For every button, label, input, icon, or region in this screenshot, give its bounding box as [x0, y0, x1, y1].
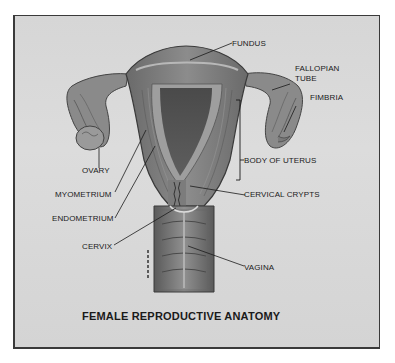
- label-fallopian-tube-line1: FALLOPIAN: [295, 64, 339, 73]
- label-fallopian-tube-line2: TUBE: [295, 74, 317, 83]
- label-myometrium: MYOMETRIUM: [55, 190, 112, 199]
- label-cervical-crypts: CERVICAL CRYPTS: [244, 190, 320, 199]
- label-fundus: FUNDUS: [232, 39, 266, 48]
- label-endometrium: ENDOMETRIUM: [52, 214, 114, 223]
- left-ovary: [76, 126, 104, 150]
- label-vagina: VAGINA: [244, 263, 274, 272]
- diagram-title: FEMALE REPRODUCTIVE ANATOMY: [82, 310, 280, 322]
- label-body-of-uterus: BODY OF UTERUS: [244, 156, 316, 165]
- vagina: [154, 206, 214, 292]
- label-ovary: OVARY: [82, 166, 110, 175]
- uterus-body: [126, 46, 248, 206]
- label-fimbria: FIMBRIA: [310, 93, 343, 102]
- label-cervix: CERVIX: [82, 242, 112, 251]
- uterus-illustration: [0, 0, 395, 363]
